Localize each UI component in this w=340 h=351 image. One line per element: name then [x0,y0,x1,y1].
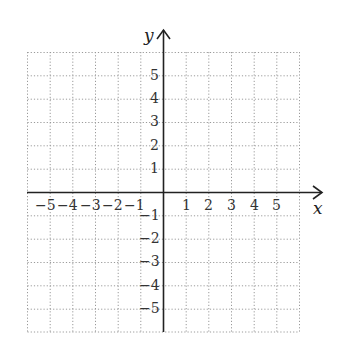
x-tick-4: 4 [250,198,259,212]
x-tick-neg5: −5 [35,198,56,212]
y-tick-3: 3 [150,114,159,128]
y-tick-4: 4 [150,91,159,105]
x-tick-neg3: −3 [80,198,101,212]
x-tick-neg1: −1 [124,198,145,212]
y-tick-neg3: −3 [139,254,160,268]
x-tick-3: 3 [227,198,236,212]
y-tick-5: 5 [150,68,159,82]
y-tick-neg5: −5 [139,301,160,315]
y-tick-1: 1 [150,161,159,175]
x-tick-1: 1 [182,198,191,212]
y-tick-neg4: −4 [139,278,160,292]
y-axis-label: y [144,25,154,45]
y-tick-neg2: −2 [139,231,160,245]
y-tick-2: 2 [150,138,159,152]
x-tick-neg4: −4 [57,198,78,212]
x-tick-2: 2 [204,198,213,212]
x-tick-5: 5 [272,198,281,212]
coordinate-plane [0,0,340,351]
x-axis-label: x [313,198,323,218]
x-tick-neg2: −2 [102,198,123,212]
